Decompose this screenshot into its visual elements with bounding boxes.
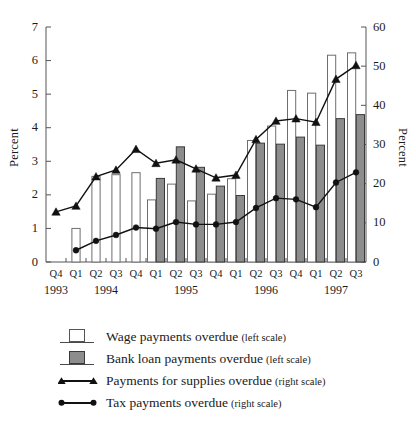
chart-legend: Wage payments overdue(left scale)Bank lo…: [0, 326, 416, 414]
legend-item[interactable]: Payments for supplies overdue(right scal…: [0, 370, 416, 392]
legend-item[interactable]: Tax payments overdue(right scale): [0, 392, 416, 414]
legend-label: Tax payments overdue: [106, 395, 228, 411]
legend-triangle-marker-icon: [58, 372, 98, 390]
bar: [208, 194, 216, 262]
bar: [236, 196, 244, 262]
circle-line-key: [58, 394, 98, 412]
marker-circle: [233, 219, 239, 225]
bar: [316, 145, 324, 262]
bar: [256, 143, 264, 262]
legend-swatch-square: [69, 329, 85, 342]
bar: [328, 55, 336, 262]
legend-swatch-baseline: [60, 342, 94, 343]
bar: [156, 178, 164, 262]
gray-square-key: [58, 350, 98, 368]
marker-circle: [313, 204, 319, 210]
bar: [248, 140, 256, 262]
bar: [72, 228, 80, 262]
marker-circle: [153, 226, 159, 232]
legend-circle-marker-icon: [58, 394, 98, 412]
bar: [132, 173, 140, 262]
marker-circle: [253, 205, 259, 211]
bar: [176, 147, 184, 262]
chart-figure: Percent Percent 01234567 0102030405060 Q…: [0, 0, 416, 424]
bar: [276, 144, 284, 262]
bar: [188, 201, 196, 262]
bar: [268, 126, 276, 262]
marker-circle: [353, 169, 359, 175]
marker-circle: [193, 222, 199, 228]
marker-triangle: [132, 145, 140, 152]
white-square-key: [58, 328, 98, 346]
bar: [196, 167, 204, 262]
marker-circle: [333, 180, 339, 186]
bars-group: [72, 53, 365, 262]
bar: [92, 176, 100, 262]
legend-scale-note: (right scale): [275, 376, 325, 387]
marker-circle: [133, 225, 139, 231]
legend-scale-note: (right scale): [231, 398, 281, 409]
marker-circle: [73, 247, 79, 253]
legend-swatch-baseline: [60, 364, 94, 365]
legend-swatch-square: [69, 351, 85, 364]
legend-label: Payments for supplies overdue: [106, 373, 272, 389]
bar: [348, 53, 356, 262]
legend-label: Wage payments overdue: [106, 329, 238, 345]
marker-circle: [113, 232, 119, 238]
legend-label: Bank loan payments overdue: [106, 351, 263, 367]
legend-scale-note: (left scale): [266, 354, 311, 365]
marker-circle: [273, 195, 279, 201]
marker-circle: [293, 196, 299, 202]
marker-circle: [93, 238, 99, 244]
triangle-line-key: [58, 372, 98, 390]
bar: [308, 93, 316, 262]
legend-item[interactable]: Bank loan payments overdue(left scale): [0, 348, 416, 370]
marker-circle: [213, 222, 219, 228]
legend-item[interactable]: Wage payments overdue(left scale): [0, 326, 416, 348]
marker-triangle: [232, 171, 240, 178]
bar: [356, 115, 364, 262]
marker-triangle: [72, 202, 80, 209]
bar: [336, 119, 344, 262]
bar: [112, 175, 120, 262]
legend-scale-note: (left scale): [241, 332, 286, 343]
marker-circle: [173, 219, 179, 225]
bar: [288, 90, 296, 262]
